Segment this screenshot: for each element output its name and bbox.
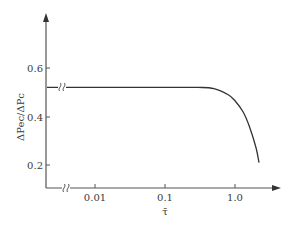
y-tick-label-0.2: 0.2 — [27, 160, 43, 171]
y-axis-arrow-icon — [43, 13, 49, 22]
x-tick-label-1.0: 1.0 — [227, 192, 243, 203]
y-tick-label-0.4: 0.4 — [27, 112, 43, 123]
x-tick-label-0.01: 0.01 — [84, 192, 106, 203]
x-tick-label-0.1: 0.1 — [157, 192, 173, 203]
series-break-icon — [58, 83, 66, 91]
x-axis-break-icon — [62, 184, 70, 192]
x-axis-label: τ̄ — [162, 206, 168, 217]
chart: 0.6 0.4 0.2 0.01 0.1 1.0 τ̄ ΔPec/ΔPc — [0, 0, 295, 226]
y-tick-label-0.6: 0.6 — [27, 63, 43, 74]
x-axis-arrow-icon — [272, 185, 281, 191]
x-ticks: 0.01 0.1 1.0 — [84, 184, 243, 203]
data-series-line — [47, 87, 259, 162]
y-axis-label: ΔPec/ΔPc — [15, 93, 26, 141]
